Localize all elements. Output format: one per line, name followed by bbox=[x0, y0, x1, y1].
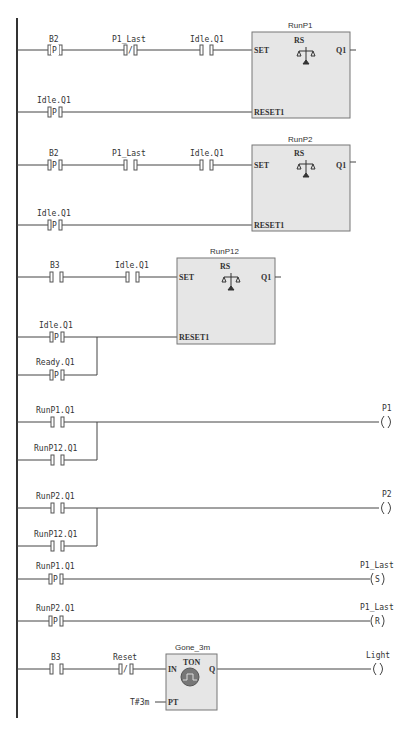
svg-text:SET: SET bbox=[254, 46, 270, 55]
contact-b2-positive-edge[interactable]: P B2 bbox=[48, 149, 62, 170]
contact-label: RunP1.Q1 bbox=[36, 562, 75, 571]
rs-block-runp1[interactable]: RunP1 RS SET RESET1 Q1 bbox=[252, 21, 356, 118]
coil-p2[interactable]: P2 bbox=[379, 490, 393, 514]
svg-text:P: P bbox=[52, 108, 57, 117]
rung-5: RunP2.Q1 RunP12.Q1 P2 bbox=[17, 490, 393, 551]
contact-runp1-q1-positive-edge[interactable]: P RunP1.Q1 bbox=[36, 562, 75, 584]
ladder-diagram: P B2 / P1_Last Idle.Q1 P Idle.Q1 RunP1 R… bbox=[0, 0, 408, 733]
svg-text:S: S bbox=[375, 575, 380, 584]
rs-block-runp2[interactable]: RunP2 RS SET RESET1 Q1 bbox=[252, 135, 356, 231]
svg-text:IN: IN bbox=[168, 665, 177, 674]
rung-1: P B2 / P1_Last Idle.Q1 P Idle.Q1 RunP1 R… bbox=[17, 21, 356, 118]
coil-label: P1_Last bbox=[360, 603, 394, 612]
svg-text:P: P bbox=[54, 333, 59, 342]
svg-text:RESET1: RESET1 bbox=[254, 108, 284, 117]
svg-text:SET: SET bbox=[179, 273, 195, 282]
contact-label: RunP1.Q1 bbox=[36, 406, 75, 415]
coil-label: P2 bbox=[382, 490, 392, 499]
svg-text:/: / bbox=[123, 665, 128, 674]
contact-label: RunP12.Q1 bbox=[34, 530, 78, 539]
contact-p1-last-nc[interactable]: / P1_Last bbox=[112, 35, 146, 55]
rung-4: RunP1.Q1 RunP12.Q1 P1 bbox=[17, 404, 393, 465]
contact-runp1-q1-no[interactable]: RunP1.Q1 bbox=[36, 406, 75, 427]
contact-label: RunP2.Q1 bbox=[36, 492, 75, 501]
block-type: RS bbox=[294, 36, 305, 45]
contact-p1-last-no[interactable]: P1_Last bbox=[112, 149, 146, 170]
contact-b3-no[interactable]: B3 bbox=[50, 653, 63, 674]
rung-6: P RunP1.Q1 S P1_Last bbox=[17, 561, 394, 585]
contact-runp2-q1-no[interactable]: RunP2.Q1 bbox=[36, 492, 75, 513]
contact-label: Idle.Q1 bbox=[37, 96, 71, 105]
svg-text:P: P bbox=[52, 221, 57, 230]
svg-text:R: R bbox=[375, 617, 380, 626]
contact-label: Ready.Q1 bbox=[36, 358, 75, 367]
contact-label: P1_Last bbox=[112, 149, 146, 158]
contact-b3-no[interactable]: B3 bbox=[50, 261, 63, 282]
contact-idle-q1-positive-edge[interactable]: P Idle.Q1 bbox=[39, 321, 73, 342]
block-instance-name: Gone_3m bbox=[175, 643, 210, 652]
block-instance-name: RunP1 bbox=[288, 21, 313, 30]
contact-label: B2 bbox=[49, 149, 59, 158]
svg-text:/: / bbox=[128, 46, 133, 55]
contact-label: P1_Last bbox=[112, 35, 146, 44]
contact-idle-q1-no[interactable]: Idle.Q1 bbox=[115, 261, 149, 282]
svg-text:P: P bbox=[53, 617, 58, 626]
contact-runp12-q1-no[interactable]: RunP12.Q1 bbox=[34, 444, 78, 465]
svg-text:P: P bbox=[52, 46, 57, 55]
ton-timer-block-gone-3m[interactable]: Gone_3m TON IN PT Q T#3m bbox=[130, 643, 217, 710]
contact-label: Reset bbox=[113, 653, 137, 662]
block-type: RS bbox=[294, 149, 305, 158]
contact-label: RunP2.Q1 bbox=[36, 604, 75, 613]
block-type: RS bbox=[220, 262, 231, 271]
contact-idle-q1-no[interactable]: Idle.Q1 bbox=[190, 149, 224, 170]
contact-label: B2 bbox=[49, 35, 59, 44]
rung-7: P RunP2.Q1 R P1_Last bbox=[17, 603, 394, 627]
coil-light[interactable]: Light bbox=[366, 651, 390, 675]
block-type: TON bbox=[183, 658, 200, 667]
svg-text:RESET1: RESET1 bbox=[254, 221, 284, 230]
coil-p1-last-set[interactable]: S P1_Last bbox=[360, 561, 394, 585]
block-instance-name: RunP12 bbox=[210, 247, 239, 256]
contact-idle-q1-no[interactable]: Idle.Q1 bbox=[190, 35, 224, 55]
contact-label: B3 bbox=[50, 261, 60, 270]
coil-p1-last-reset[interactable]: R P1_Last bbox=[360, 603, 394, 627]
contact-runp2-q1-positive-edge[interactable]: P RunP2.Q1 bbox=[36, 604, 75, 626]
contact-label: Idle.Q1 bbox=[37, 209, 71, 218]
rung-2: P B2 P1_Last Idle.Q1 P Idle.Q1 RunP2 RS … bbox=[17, 135, 356, 231]
svg-text:Q1: Q1 bbox=[261, 273, 271, 282]
contact-label: B3 bbox=[51, 653, 61, 662]
contact-b2-positive-edge[interactable]: P B2 bbox=[48, 35, 62, 55]
svg-text:RESET1: RESET1 bbox=[179, 333, 209, 342]
rs-block-runp12[interactable]: RunP12 RS SET RESET1 Q1 bbox=[177, 247, 281, 344]
clock-icon bbox=[181, 668, 199, 686]
svg-text:SET: SET bbox=[254, 161, 270, 170]
coil-label: P1 bbox=[382, 404, 392, 413]
svg-text:Q1: Q1 bbox=[336, 161, 346, 170]
svg-text:P: P bbox=[53, 575, 58, 584]
contact-label: Idle.Q1 bbox=[190, 35, 224, 44]
svg-text:PT: PT bbox=[168, 698, 179, 707]
coil-label: Light bbox=[366, 651, 390, 660]
contact-label: Idle.Q1 bbox=[115, 261, 149, 270]
contact-idle-q1-positive-edge[interactable]: P Idle.Q1 bbox=[37, 209, 71, 230]
svg-text:P: P bbox=[54, 371, 59, 380]
svg-text:P: P bbox=[52, 161, 57, 170]
svg-text:Q: Q bbox=[209, 665, 215, 674]
block-instance-name: RunP2 bbox=[288, 135, 313, 144]
contact-runp12-q1-no[interactable]: RunP12.Q1 bbox=[34, 530, 78, 551]
rung-3: B3 Idle.Q1 P Idle.Q1 P Ready.Q1 RunP12 R… bbox=[17, 247, 281, 380]
coil-p1[interactable]: P1 bbox=[379, 404, 393, 428]
coil-label: P1_Last bbox=[360, 561, 394, 570]
preset-time-value: T#3m bbox=[130, 698, 149, 707]
contact-ready-q1-positive-edge[interactable]: P Ready.Q1 bbox=[36, 358, 75, 380]
contact-label: Idle.Q1 bbox=[190, 149, 224, 158]
contact-label: Idle.Q1 bbox=[39, 321, 73, 330]
contact-reset-nc[interactable]: / Reset bbox=[113, 653, 137, 674]
svg-text:Q1: Q1 bbox=[336, 46, 346, 55]
contact-idle-q1-positive-edge[interactable]: P Idle.Q1 bbox=[37, 96, 71, 117]
rung-8: B3 / Reset Gone_3m TON IN PT Q T#3m Ligh… bbox=[17, 643, 390, 710]
contact-label: RunP12.Q1 bbox=[34, 444, 78, 453]
